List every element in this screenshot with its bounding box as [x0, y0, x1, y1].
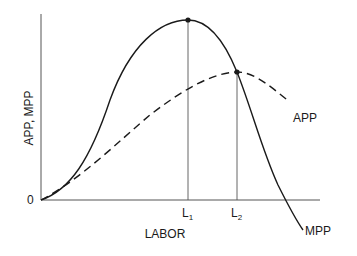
app-max-point — [234, 69, 239, 74]
l1-label: L1 — [182, 206, 194, 222]
mpp-label: MPP — [305, 224, 331, 238]
mpp-max-point — [185, 17, 190, 22]
origin-label: 0 — [27, 193, 34, 207]
app-label: APP — [293, 111, 317, 125]
app-curve — [41, 72, 290, 200]
mpp-curve — [41, 20, 303, 230]
l2-label: L2 — [231, 206, 243, 222]
x-axis-label: LABOR — [145, 227, 186, 241]
chart: APP, MPP 0 L1 L2 LABOR APP MPP — [0, 0, 357, 256]
y-axis-label: APP, MPP — [22, 90, 36, 145]
